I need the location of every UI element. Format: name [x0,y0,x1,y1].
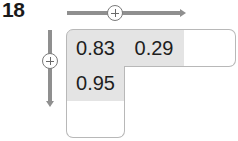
circle-plus-icon [107,5,123,21]
cell-middle-left: 0.95 [66,66,125,102]
problem-number: 18 [2,0,24,22]
answer-cell-horizontal-sum[interactable] [184,29,236,67]
circle-plus-icon [42,53,58,69]
answer-cell-vertical-sum[interactable] [66,101,125,138]
arrow-down-icon [46,101,54,107]
cell-top-middle: 0.29 [124,29,185,67]
horizontal-arrow-line [67,11,181,15]
arrow-right-icon [180,9,186,17]
cell-top-left: 0.83 [66,29,125,67]
